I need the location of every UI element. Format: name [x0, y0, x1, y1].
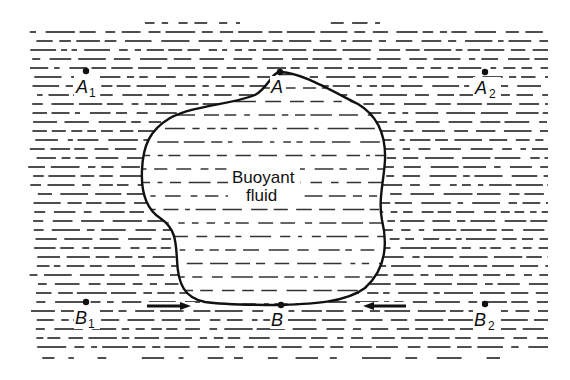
buoyant-fluid-diagram: Buoyant fluid A A 1 A 2 B B 1 B 2 — [0, 0, 570, 380]
point-A2-letter: A — [474, 78, 487, 98]
point-B1-dot — [83, 299, 89, 305]
point-B2-letter: B — [474, 310, 486, 330]
point-B2: B 2 — [473, 301, 501, 333]
left-pointing-arrow-icon — [360, 302, 408, 310]
blob-label-line2: fluid — [246, 186, 277, 205]
point-B1-letter: B — [75, 308, 87, 328]
point-A2-dot — [482, 69, 488, 75]
right-pointing-arrow-icon — [145, 302, 195, 310]
point-A-dot — [277, 69, 283, 75]
point-A2-subscript: 2 — [489, 87, 496, 101]
point-A1: A 1 — [74, 68, 100, 100]
point-B2-subscript: 2 — [488, 319, 495, 333]
point-B1-subscript: 1 — [88, 317, 95, 331]
point-B-label: B — [271, 310, 283, 330]
point-B2-dot — [482, 301, 488, 307]
point-A1-letter: A — [75, 77, 88, 97]
point-B1: B 1 — [74, 299, 100, 331]
point-A1-subscript: 1 — [89, 86, 96, 100]
point-A-label: A — [270, 77, 283, 97]
blob-label-line1: Buoyant — [232, 168, 295, 187]
point-B-dot — [278, 302, 284, 308]
point-A2: A 2 — [473, 69, 501, 101]
point-A1-dot — [83, 68, 89, 74]
